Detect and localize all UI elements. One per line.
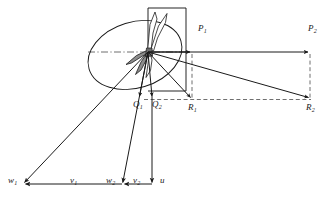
label-r1-text: R	[188, 102, 194, 112]
label-q2: Q2	[152, 100, 162, 109]
label-r1-sub: 1	[194, 107, 197, 113]
label-q1-sub: 1	[140, 104, 143, 110]
label-u-text: u	[160, 175, 165, 185]
label-p1: P1	[198, 24, 207, 33]
label-r2-text: R	[306, 102, 312, 112]
label-q2-sub: 2	[159, 104, 162, 110]
vector-w2	[123, 52, 148, 183]
dashed-construction-lines	[144, 54, 311, 100]
label-p1-sub: 1	[204, 28, 207, 34]
disc-ellipse-outline	[79, 9, 190, 100]
rotor-disc-ellipse	[79, 9, 190, 100]
label-w2: w2	[106, 176, 115, 185]
propeller-vector-diagram: P1 P2 R1 R2 Q1 Q2 w1 v1 w2 v2 u	[0, 0, 330, 207]
label-v1-sub: 1	[74, 180, 77, 186]
label-v2: v2	[133, 176, 140, 185]
label-w2-sub: 2	[112, 180, 115, 186]
label-w1-sub: 1	[14, 180, 17, 186]
label-r2-sub: 2	[312, 107, 315, 113]
label-u: u	[160, 176, 165, 185]
label-p2-text: P	[308, 23, 314, 33]
label-r1: R1	[188, 103, 197, 112]
vector-w1	[25, 52, 149, 183]
label-v2-sub: 2	[137, 180, 140, 186]
label-p1-text: P	[198, 23, 204, 33]
solid-vectors	[25, 52, 309, 184]
label-q2-text: Q	[152, 99, 159, 109]
label-w1: w1	[8, 176, 17, 185]
label-p2-sub: 2	[314, 28, 317, 34]
label-q1: Q1	[133, 100, 143, 109]
diagram-canvas	[0, 0, 330, 207]
label-r2: R2	[306, 103, 315, 112]
label-v1: v1	[70, 176, 77, 185]
label-p2: P2	[308, 24, 317, 33]
label-q1-text: Q	[133, 99, 140, 109]
